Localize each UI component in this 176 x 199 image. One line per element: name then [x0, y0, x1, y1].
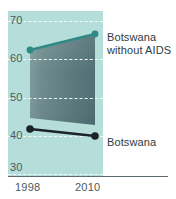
chart-figure: 70 60 50 40 30 Botswana without AIDS Bot… [0, 0, 176, 199]
series-point-without-aids-1998 [27, 47, 34, 54]
x-axis-tick-1998: 1998 [15, 181, 40, 194]
series-label-botswana: Botswana [107, 136, 156, 149]
x-axis-line [8, 176, 168, 177]
series-point-botswana-2010 [91, 132, 99, 140]
series-overlay [0, 0, 176, 199]
series-label-without-aids-line1: Botswana [107, 31, 171, 44]
series-point-without-aids-2010 [92, 31, 99, 38]
x-axis-tick-2010: 2010 [75, 181, 100, 194]
series-label-without-aids-line2: without AIDS [107, 44, 171, 57]
series-label-without-aids: Botswana without AIDS [107, 31, 171, 56]
series-line-botswana [30, 129, 95, 136]
series-point-botswana-1998 [26, 125, 34, 133]
series-line-without-aids [30, 34, 95, 50]
